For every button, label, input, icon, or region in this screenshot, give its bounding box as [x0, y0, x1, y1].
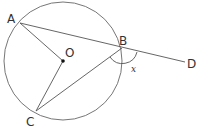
radius-o-c: [36, 61, 63, 111]
label-c: C: [26, 115, 34, 129]
circle-diagram: A B C D O x: [0, 0, 198, 130]
radius-o-a: [20, 23, 63, 61]
label-b: B: [119, 34, 127, 48]
line-a-d: [20, 23, 185, 62]
label-d: D: [187, 57, 196, 71]
chord-c-b: [36, 48, 122, 111]
label-a: A: [7, 12, 16, 26]
label-o: O: [65, 46, 74, 60]
label-angle-x: x: [131, 64, 136, 74]
